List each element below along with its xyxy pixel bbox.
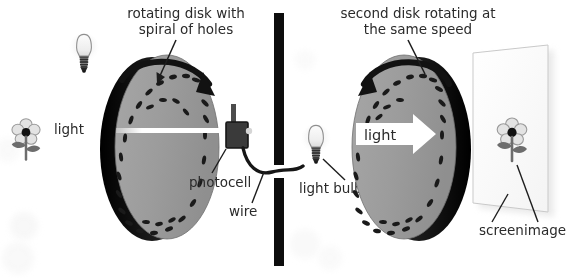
source-light-bulb-icon (69, 33, 99, 73)
right-disk-caption-line2: the same speed (364, 21, 472, 37)
diagram-canvas: light (0, 0, 567, 278)
screen-label: screen (479, 222, 524, 238)
source-light-label: light (54, 121, 84, 137)
connecting-wire (243, 148, 303, 173)
wire-leader-line (252, 172, 264, 203)
beam-label: light (364, 127, 396, 143)
light-beam-left (116, 128, 219, 133)
wire-label: wire (229, 203, 257, 219)
light-bulb-label: light bulb (299, 180, 363, 196)
photocell-label: photocell (189, 174, 251, 190)
light-bulb-leader-line (323, 159, 345, 180)
photocell-box (226, 104, 252, 148)
left-disk-caption-line2: spiral of holes (139, 21, 233, 37)
image-label: image (524, 222, 566, 238)
output-light-bulb-icon (301, 124, 331, 164)
right-disk-caption-line1: second disk rotating at (340, 5, 495, 21)
opaque-wall (274, 13, 284, 266)
left-disk-caption-line1: rotating disk with (127, 5, 245, 21)
